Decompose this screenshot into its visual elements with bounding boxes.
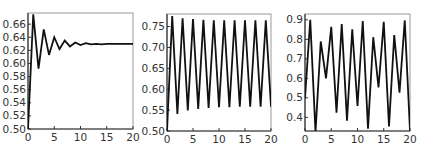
y-tick-label: 0.52 [3, 109, 26, 121]
y-tick-label: 0.60 [142, 83, 165, 95]
y-tick-label: 0.50 [142, 125, 165, 137]
x-tick-label: 5 [190, 133, 197, 145]
x-tick-label: 5 [328, 133, 335, 145]
figure: 0.500.520.540.560.580.600.620.640.660510… [0, 0, 426, 150]
y-tick-label: 0.54 [3, 96, 27, 108]
x-tick-label: 20 [126, 131, 139, 143]
y-tick-label: 0.7 [286, 52, 303, 64]
x-tick-label: 5 [51, 131, 58, 143]
data-line [28, 14, 133, 129]
plot-frame [305, 14, 410, 131]
y-tick-label: 0.56 [3, 83, 27, 95]
y-tick-label: 0.64 [3, 31, 27, 43]
y-tick-label: 0.62 [3, 44, 26, 56]
chart-panel-period-two: 0.500.550.600.650.700.7505101520 [142, 14, 278, 145]
y-tick-label: 0.50 [3, 123, 26, 135]
y-tick-label: 0.65 [142, 62, 165, 74]
y-tick-label: 0.4 [286, 111, 303, 123]
x-tick-label: 10 [212, 133, 225, 145]
x-tick-label: 0 [25, 131, 32, 143]
y-tick-label: 0.9 [286, 13, 303, 25]
x-tick-label: 0 [302, 133, 309, 145]
x-tick-label: 20 [403, 133, 416, 145]
y-tick-label: 0.60 [3, 57, 26, 69]
y-tick-label: 0.58 [3, 70, 26, 82]
x-tick-label: 15 [238, 133, 251, 145]
y-tick-label: 0.5 [286, 91, 303, 103]
y-tick-label: 0.66 [3, 18, 27, 30]
data-line [305, 20, 410, 132]
x-tick-label: 10 [351, 133, 364, 145]
data-line [167, 16, 271, 131]
x-tick-label: 15 [100, 131, 113, 143]
chart-panel-converging: 0.500.520.540.560.580.600.620.640.660510… [3, 13, 140, 143]
x-tick-label: 20 [264, 133, 277, 145]
x-tick-label: 0 [164, 133, 171, 145]
y-tick-label: 0.8 [286, 33, 303, 45]
y-tick-label: 0.55 [142, 104, 165, 116]
chart-panel-chaotic: 0.40.50.60.70.80.905101520 [286, 13, 416, 145]
y-tick-label: 0.6 [286, 72, 303, 84]
y-tick-label: 0.70 [142, 41, 165, 53]
y-tick-label: 0.75 [142, 20, 165, 32]
x-tick-label: 15 [377, 133, 390, 145]
x-tick-label: 10 [74, 131, 87, 143]
